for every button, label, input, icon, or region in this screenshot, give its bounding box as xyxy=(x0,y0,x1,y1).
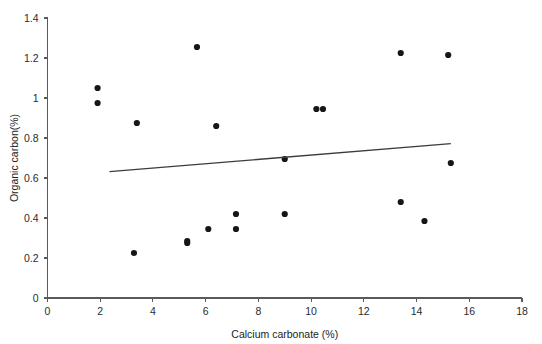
y-tick-label: 0.8 xyxy=(24,132,39,144)
x-tick-label: 0 xyxy=(45,305,51,317)
y-tick-label: 0 xyxy=(33,292,39,304)
x-tick-label: 18 xyxy=(516,305,528,317)
y-tick-label: 0.4 xyxy=(24,212,39,224)
data-point xyxy=(313,106,319,112)
data-point xyxy=(398,50,404,56)
data-point xyxy=(398,199,404,205)
x-tick-label: 6 xyxy=(203,305,209,317)
x-tick-label: 8 xyxy=(255,305,261,317)
y-tick-label: 1 xyxy=(33,92,39,104)
data-point xyxy=(131,250,137,256)
data-points-layer xyxy=(94,44,453,256)
data-point xyxy=(94,85,100,91)
x-tick-label: 16 xyxy=(463,305,475,317)
trend-line xyxy=(109,144,450,172)
x-tick-label: 14 xyxy=(411,305,423,317)
data-point xyxy=(233,211,239,217)
data-point xyxy=(205,226,211,232)
y-tick-label: 0.2 xyxy=(24,252,39,264)
x-tick-label: 2 xyxy=(97,305,103,317)
data-point xyxy=(282,211,288,217)
data-point xyxy=(134,120,140,126)
x-axis-ticks: 024681012141618 xyxy=(45,298,528,317)
scatter-chart-figure: 00.20.40.60.811.21.4 024681012141618 Cal… xyxy=(0,0,542,344)
data-point xyxy=(94,100,100,106)
data-point xyxy=(421,218,427,224)
x-tick-label: 4 xyxy=(150,305,156,317)
x-tick-label: 10 xyxy=(305,305,317,317)
data-point xyxy=(233,226,239,232)
data-point xyxy=(448,160,454,166)
y-axis-title: Organic carbon(%) xyxy=(8,114,20,202)
data-point xyxy=(213,123,219,129)
data-point xyxy=(194,44,200,50)
plot-canvas: 00.20.40.60.811.21.4 024681012141618 Cal… xyxy=(0,0,542,344)
data-point xyxy=(320,106,326,112)
x-axis-title: Calcium carbonate (%) xyxy=(231,328,338,340)
y-tick-label: 1.4 xyxy=(24,12,39,24)
y-tick-label: 0.6 xyxy=(24,172,39,184)
y-tick-label: 1.2 xyxy=(24,52,39,64)
data-point xyxy=(184,240,190,246)
x-tick-label: 12 xyxy=(358,305,370,317)
y-axis-ticks: 00.20.40.60.811.21.4 xyxy=(24,12,48,304)
data-point xyxy=(445,52,451,58)
